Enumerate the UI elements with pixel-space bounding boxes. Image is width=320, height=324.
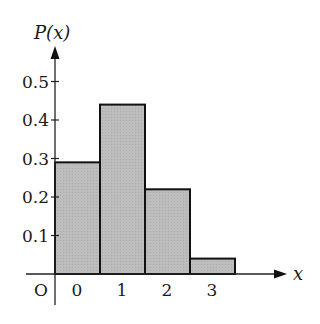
x-tick-label: 0 — [72, 280, 83, 300]
y-axis-label: P(x) — [33, 22, 70, 43]
bar-0 — [55, 162, 100, 274]
x-tick-label: 3 — [207, 280, 218, 300]
bar-3 — [190, 259, 235, 274]
probability-histogram: 0.10.20.30.40.5 0123 P(x) x O — [0, 0, 320, 324]
y-tick-label: 0.3 — [22, 149, 49, 169]
x-axis-label: x — [293, 263, 303, 284]
y-tick-label: 0.2 — [22, 187, 49, 207]
bar-2 — [145, 189, 190, 274]
y-axis-arrow-icon — [51, 46, 60, 59]
y-tick-label: 0.1 — [22, 226, 49, 246]
x-tick-label: 2 — [162, 280, 173, 300]
origin-label: O — [34, 280, 48, 300]
y-ticks-group: 0.10.20.30.40.5 — [22, 72, 59, 246]
bar-1 — [100, 105, 145, 274]
bars-group — [55, 105, 235, 274]
y-tick-label: 0.5 — [22, 72, 49, 92]
x-axis-arrow-icon — [274, 270, 287, 279]
x-labels-group: 0123 — [72, 280, 218, 300]
y-tick-label: 0.4 — [22, 110, 49, 130]
x-tick-label: 1 — [117, 280, 128, 300]
